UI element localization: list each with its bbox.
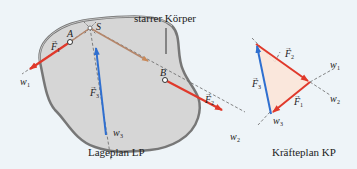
svg-text:2: 2 [291, 54, 294, 60]
kp-label-f1: F 1 → [293, 92, 303, 108]
kp-label-f3: F 3 → [251, 74, 261, 90]
label-w1: w 1 [20, 76, 30, 88]
svg-text:→: → [51, 37, 58, 45]
caption-lageplan: Lageplan LP [88, 146, 145, 158]
svg-text:1: 1 [57, 47, 60, 53]
kraefteplan: F 2 → F 1 → F 3 → w 1 w 2 w 3 Kräfteplan… [251, 38, 340, 158]
svg-text:1: 1 [337, 65, 340, 71]
kp-label-w1: w 1 [330, 59, 340, 71]
svg-text:→: → [90, 83, 97, 91]
point-s [88, 26, 92, 30]
point-b [163, 78, 168, 83]
svg-text:3: 3 [120, 133, 123, 139]
svg-text:w: w [330, 93, 337, 104]
kp-label-w3: w 3 [273, 115, 283, 127]
kp-label-w2: w 2 [330, 93, 340, 105]
label-w2: w 2 [230, 131, 240, 143]
body-label: starrer Körper [134, 12, 196, 24]
svg-text:w: w [230, 131, 237, 142]
kp-line-w3 [258, 112, 270, 125]
svg-text:w: w [330, 59, 337, 70]
rigid-body [40, 17, 200, 152]
svg-text:1: 1 [27, 82, 30, 88]
svg-text:→: → [285, 44, 292, 52]
kp-label-f2: F 2 → [284, 44, 294, 60]
kp-line-w2 [310, 82, 330, 95]
svg-text:w: w [273, 115, 280, 126]
svg-text:3: 3 [280, 121, 283, 127]
svg-text:→: → [205, 90, 212, 98]
svg-text:2: 2 [337, 99, 340, 105]
kp-line-w1 [310, 68, 335, 82]
svg-text:w: w [113, 127, 120, 138]
svg-text:w: w [20, 76, 27, 87]
svg-text:2: 2 [211, 100, 214, 106]
svg-text:→: → [252, 74, 259, 82]
label-a: A [66, 28, 74, 39]
svg-text:1: 1 [300, 102, 303, 108]
svg-text:3: 3 [96, 93, 99, 99]
caption-kraefteplan: Kräfteplan KP [272, 146, 336, 158]
point-a [68, 40, 73, 45]
svg-text:3: 3 [258, 84, 261, 90]
label-s: S [96, 21, 101, 32]
label-f2: F 2 → [204, 90, 214, 106]
lageplan: starrer Körper A B S F 1 → F 2 → F 3 → w… [20, 12, 245, 160]
svg-text:2: 2 [237, 137, 240, 143]
label-b: B [160, 67, 166, 78]
diagram-canvas: starrer Körper A B S F 1 → F 2 → F 3 → w… [0, 0, 357, 169]
svg-text:→: → [294, 92, 301, 100]
